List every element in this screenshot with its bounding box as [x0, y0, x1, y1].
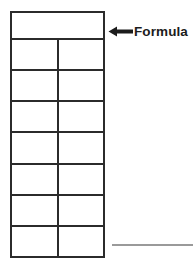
table-cell-left[interactable]: [11, 101, 58, 132]
arrow-left-icon: [108, 26, 133, 37]
formula-annotation: Formula: [108, 23, 188, 40]
worksheet-diagram: Formula: [0, 0, 193, 261]
table-row: [11, 70, 104, 101]
table-cell-right[interactable]: [58, 195, 105, 226]
worksheet-table-body: [11, 12, 104, 257]
table-cell-left[interactable]: [11, 132, 58, 163]
formula-header-cell[interactable]: [11, 12, 104, 39]
table-cell-left[interactable]: [11, 70, 58, 101]
table-cell-right[interactable]: [58, 132, 105, 163]
table-cell-right[interactable]: [58, 39, 105, 70]
table-cell-right[interactable]: [58, 70, 105, 101]
formula-header-row: [11, 12, 104, 39]
table-row: [11, 195, 104, 226]
table-cell-left[interactable]: [11, 39, 58, 70]
horizontal-rule: [112, 244, 193, 246]
table-cell-right[interactable]: [58, 164, 105, 195]
table-row: [11, 132, 104, 163]
table-row: [11, 101, 104, 132]
table-row: [11, 39, 104, 70]
table-row: [11, 164, 104, 195]
table-cell-right[interactable]: [58, 101, 105, 132]
table-cell-left[interactable]: [11, 195, 58, 226]
formula-annotation-label: Formula: [134, 25, 188, 39]
table-cell-right[interactable]: [58, 226, 105, 257]
table-cell-left[interactable]: [11, 226, 58, 257]
worksheet-table: [10, 11, 105, 258]
table-row: [11, 226, 104, 257]
table-cell-left[interactable]: [11, 164, 58, 195]
